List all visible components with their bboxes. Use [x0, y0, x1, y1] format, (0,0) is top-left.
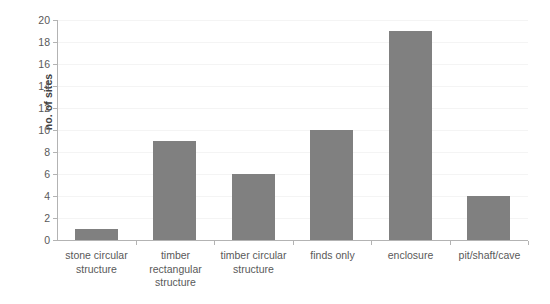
- x-axis-label: pit/shaft/cave: [450, 249, 529, 263]
- x-tick-separator: [214, 241, 215, 245]
- x-axis-label: enclosure: [371, 249, 450, 263]
- x-axis-label: finds only: [293, 249, 372, 263]
- y-tick-label: 18: [10, 37, 50, 48]
- bar-chart: no. of sites 02468101214161820 stone cir…: [0, 0, 550, 304]
- x-tick-separator: [136, 241, 137, 245]
- x-axis-label: stone circular structure: [57, 249, 136, 276]
- bar: [232, 174, 275, 240]
- x-tick-separator: [371, 241, 372, 245]
- x-tick-separator: [450, 241, 451, 245]
- y-tick-label: 20: [10, 15, 50, 26]
- bar: [153, 141, 196, 240]
- y-tick-label: 16: [10, 59, 50, 70]
- x-tick-separator: [528, 241, 529, 245]
- y-tick-label: 10: [10, 125, 50, 136]
- x-axis-label: timber circular structure: [214, 249, 293, 276]
- y-tick-label: 2: [10, 213, 50, 224]
- bar: [467, 196, 510, 240]
- y-tick-label: 12: [10, 103, 50, 114]
- bars-layer: [57, 20, 528, 240]
- y-tick-label: 0: [10, 235, 50, 246]
- bar: [389, 31, 432, 240]
- x-axis-label: timber rectangular structure: [136, 249, 215, 290]
- y-tick-label: 4: [10, 191, 50, 202]
- y-tick-label: 8: [10, 147, 50, 158]
- bar: [75, 229, 118, 240]
- bar: [310, 130, 353, 240]
- x-tick-separator: [293, 241, 294, 245]
- y-tick-label: 6: [10, 169, 50, 180]
- y-tick-label: 14: [10, 81, 50, 92]
